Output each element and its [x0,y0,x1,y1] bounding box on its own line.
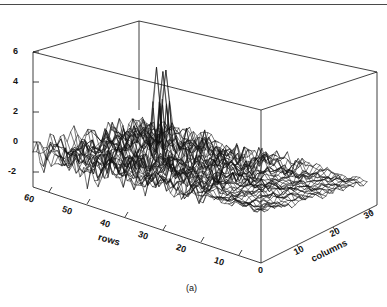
z-tick-label-0: 0 [13,136,18,146]
z-tick-label-2: 2 [13,106,18,116]
z-axis-ticks [33,52,39,172]
mesh-surface-lines [33,67,367,212]
3d-mesh-plot [0,0,387,307]
figure-panel: 6 4 2 0 -2 60 50 40 30 20 10 0 10 20 30 … [0,0,387,307]
columns-tick-label-0: 0 [258,265,263,275]
z-tick-label-neg2: -2 [8,166,16,176]
z-tick-label-4: 4 [13,76,18,86]
figure-caption: (a) [186,283,197,293]
z-tick-label-6: 6 [13,46,18,56]
